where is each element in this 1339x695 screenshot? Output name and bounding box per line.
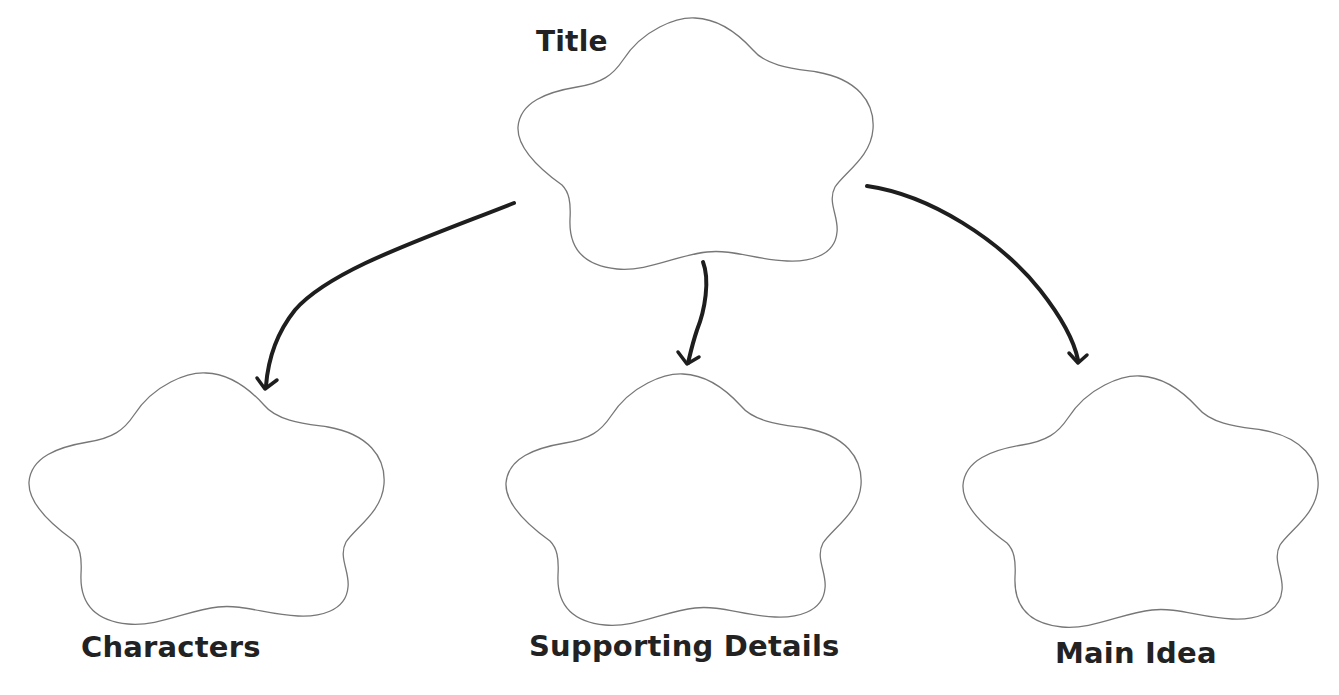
label-supporting-details: Supporting Details — [529, 629, 840, 663]
flower-main-idea — [963, 376, 1318, 627]
arrow-to-characters — [257, 203, 514, 389]
diagram-canvas — [0, 0, 1339, 695]
label-title: Title — [536, 25, 608, 58]
flower-characters — [29, 373, 384, 624]
label-characters: Characters — [81, 630, 261, 664]
arrow-to-main-idea — [867, 186, 1087, 363]
flower-supporting-details — [506, 374, 861, 625]
arrow-to-supporting-details — [678, 262, 706, 364]
label-main-idea: Main Idea — [1055, 636, 1217, 670]
